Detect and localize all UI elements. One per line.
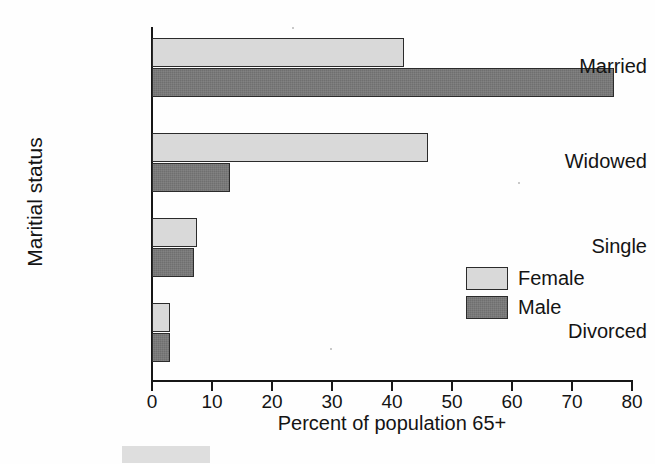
bar-widowed-male: [152, 163, 230, 192]
legend-label-male: Male: [518, 296, 561, 319]
bar-single-male: [152, 248, 194, 277]
x-axis-tick-label: 50: [432, 391, 472, 413]
y-axis-label-single: Single: [510, 235, 655, 258]
x-axis-tick-label: 70: [552, 391, 592, 413]
scan-speck: [330, 348, 332, 350]
x-axis-tick: [571, 382, 573, 391]
legend-item-male: Male: [466, 293, 585, 322]
x-axis-tick: [331, 382, 333, 391]
bar-divorced-male: [152, 333, 170, 362]
x-axis-title: Percent of population 65+: [151, 412, 633, 435]
bar-single-female: [152, 218, 197, 247]
y-axis-title: Maritial status: [23, 82, 47, 322]
y-axis-label-widowed: Widowed: [510, 150, 655, 173]
scan-speck: [518, 182, 520, 184]
x-axis-tick: [451, 382, 453, 391]
x-axis-tick-label: 30: [312, 391, 352, 413]
scan-speck: [292, 27, 294, 29]
legend: Female Male: [466, 264, 585, 322]
x-axis-tick: [271, 382, 273, 391]
x-axis-tick: [511, 382, 513, 391]
x-axis-tick-label: 80: [612, 391, 652, 413]
legend-item-female: Female: [466, 264, 585, 293]
x-axis-tick-label: 60: [492, 391, 532, 413]
plot-area: 01020304050607080 MarriedWidowedSingleDi…: [0, 0, 655, 464]
x-axis-tick: [211, 382, 213, 391]
x-axis-tick: [151, 382, 153, 391]
legend-swatch-male-icon: [466, 296, 508, 319]
x-axis-tick-label: 40: [372, 391, 412, 413]
legend-label-female: Female: [518, 267, 585, 290]
bar-divorced-female: [152, 303, 170, 332]
x-axis-tick: [631, 382, 633, 391]
bar-chart-figure: 01020304050607080 MarriedWidowedSingleDi…: [0, 0, 655, 464]
x-axis-tick: [391, 382, 393, 391]
x-axis-tick-label: 10: [192, 391, 232, 413]
x-axis-tick-label: 20: [252, 391, 292, 413]
y-axis-label-divorced: Divorced: [510, 320, 655, 343]
y-axis-label-married: Married: [510, 55, 655, 78]
bar-married-female: [152, 38, 404, 67]
scan-artifact-smudge: [122, 446, 210, 463]
legend-swatch-female-icon: [466, 267, 508, 290]
bar-widowed-female: [152, 133, 428, 162]
x-axis-tick-label: 0: [132, 391, 172, 413]
